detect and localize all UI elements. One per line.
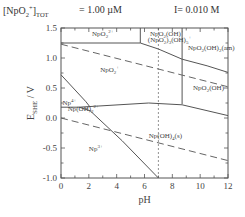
y-tick-label: 1.5 (46, 23, 58, 33)
pourbaix-diagram: NpO22+NpO2(OH)+(NpO2)3(OH)5+NpO2(OH)2(am… (0, 0, 245, 217)
y-tick-label: 0.5 (46, 83, 58, 93)
x-tick-label: 2 (87, 181, 92, 191)
x-tick-label: 6 (142, 181, 147, 191)
region-label: Np(OH)4(s) (149, 132, 183, 141)
series-line (61, 118, 228, 161)
region-label: Np3+ (89, 144, 103, 153)
region-label: NpO2(OH)2(am) (188, 44, 235, 53)
region-label: Np(OH)22+ (68, 104, 99, 114)
y-tick-label: 1.0 (46, 53, 58, 63)
x-axis-title: pH (138, 194, 150, 205)
x-tick-label: 8 (170, 181, 175, 191)
x-tick-label: 0 (59, 181, 64, 191)
region-label: NpO2+ (100, 65, 119, 75)
y-axis-title: ESHE / V (25, 85, 39, 120)
y-tick-label: 0.0 (46, 113, 58, 123)
x-tick-label: 10 (196, 181, 206, 191)
region-label: NpO2(OH) (193, 84, 225, 93)
x-tick-label: 4 (114, 181, 119, 191)
region-labels: NpO22+NpO2(OH)+(NpO2)3(OH)5+NpO2(OH)2(am… (62, 29, 235, 153)
x-tick-label: 12 (224, 181, 233, 191)
y-tick-label: -1.0 (43, 173, 58, 183)
y-tick-label: -0.5 (43, 143, 58, 153)
series-line (79, 107, 158, 178)
